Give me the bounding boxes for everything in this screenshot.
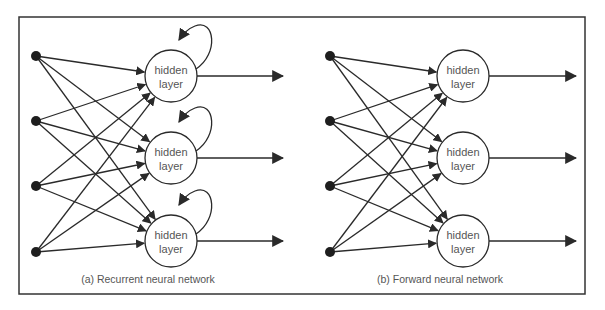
input-node-dot — [325, 116, 335, 126]
edge-forward-in0-h0 — [330, 56, 436, 72]
hidden-label-line1: hidden — [446, 64, 479, 76]
input-node-dot — [31, 181, 41, 191]
hidden-label-line1: hidden — [154, 229, 187, 241]
neural-network-comparison-figure: hiddenlayerhiddenlayerhiddenlayerhiddenl… — [0, 0, 605, 310]
hidden-label-line2: layer — [451, 78, 475, 90]
hidden-layer-node: hiddenlayer — [145, 50, 197, 102]
hidden-layer-node: hiddenlayer — [437, 215, 489, 267]
connection-edges — [36, 25, 576, 252]
edge-recurrent-in3-h0 — [36, 97, 155, 252]
edge-forward-in3-h0 — [330, 98, 447, 253]
input-node-dot — [31, 116, 41, 126]
input-node-dot — [31, 247, 41, 257]
caption-recurrent: (a) Recurrent neural network — [81, 273, 215, 285]
hidden-layer-node: hiddenlayer — [145, 132, 197, 184]
edge-recurrent-in3-h2 — [36, 243, 144, 252]
diagram-canvas: hiddenlayerhiddenlayerhiddenlayerhiddenl… — [0, 0, 605, 310]
figure-captions: (a) Recurrent neural network (b) Forward… — [81, 273, 504, 285]
hidden-label-line2: layer — [159, 160, 183, 172]
figure-frame — [19, 17, 585, 294]
edge-recurrent-in2-h2 — [36, 186, 146, 231]
edge-recurrent-in0-h0 — [36, 56, 144, 72]
hidden-label-line2: layer — [159, 243, 183, 255]
edge-recurrent-in0-h1 — [36, 56, 150, 142]
edge-forward-in3-h2 — [330, 243, 436, 252]
input-node-dot — [325, 181, 335, 191]
input-node-dot — [31, 51, 41, 61]
caption-forward: (b) Forward neural network — [377, 273, 504, 285]
hidden-label-line1: hidden — [154, 146, 187, 158]
edge-forward-in2-h2 — [330, 186, 438, 231]
input-node-dot — [325, 51, 335, 61]
hidden-label-line1: hidden — [154, 64, 187, 76]
hidden-layer-node: hiddenlayer — [437, 50, 489, 102]
hidden-label-line2: layer — [159, 78, 183, 90]
hidden-label-line2: layer — [451, 243, 475, 255]
edge-recurrent-in1-h0 — [36, 85, 145, 122]
hidden-label-line1: hidden — [446, 146, 479, 158]
hidden-layer-circle — [145, 132, 197, 184]
edge-forward-in0-h1 — [330, 56, 442, 142]
hidden-layer-node: hiddenlayer — [437, 132, 489, 184]
edge-recurrent-in3-h1 — [36, 173, 149, 252]
hidden-layer-circle — [437, 132, 489, 184]
hidden-layer-circle — [145, 215, 197, 267]
hidden-label-line2: layer — [451, 160, 475, 172]
hidden-layer-circle — [437, 50, 489, 102]
edge-forward-in1-h0 — [330, 85, 437, 121]
hidden-layer-node: hiddenlayer — [145, 215, 197, 267]
hidden-layer-circle — [145, 50, 197, 102]
edge-forward-in3-h1 — [330, 174, 441, 252]
hidden-label-line1: hidden — [446, 229, 479, 241]
hidden-layer-circle — [437, 215, 489, 267]
input-node-dot — [325, 247, 335, 257]
